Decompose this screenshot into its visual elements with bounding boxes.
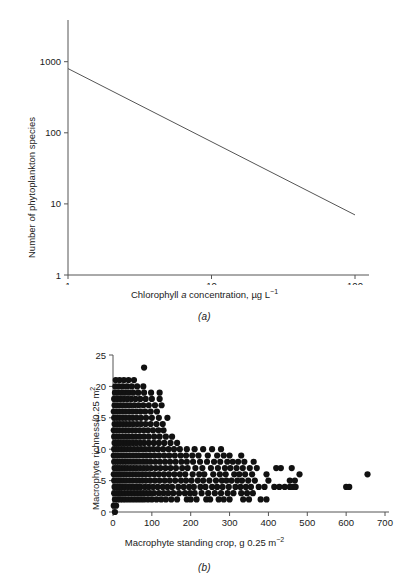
data-point	[184, 459, 190, 465]
data-point	[129, 383, 135, 389]
data-point	[190, 471, 196, 477]
data-point	[205, 452, 211, 458]
panel-b-x-tick-label: 500	[299, 517, 315, 528]
data-point	[208, 465, 214, 471]
data-point	[195, 452, 201, 458]
data-point	[199, 465, 205, 471]
data-point	[183, 452, 189, 458]
data-point	[197, 459, 203, 465]
data-point	[167, 478, 173, 484]
data-point	[198, 490, 204, 496]
data-point	[169, 484, 175, 490]
data-point	[226, 484, 232, 490]
data-point	[256, 484, 262, 490]
data-point	[168, 496, 174, 502]
data-point	[142, 408, 148, 414]
data-point	[202, 484, 208, 490]
data-point	[237, 484, 243, 490]
data-point	[146, 434, 152, 440]
panel-a-y-axis-title: Number of phytoplankton species	[26, 117, 37, 258]
data-point	[163, 434, 169, 440]
data-point	[200, 478, 206, 484]
panel-b-x-tick-label: 300	[222, 517, 238, 528]
panel-a-plot: 1101001000110100	[0, 0, 409, 285]
data-point	[170, 490, 176, 496]
data-point	[225, 490, 231, 496]
y-title-text: Number of phytoplankton species	[26, 117, 37, 258]
data-point	[141, 390, 147, 396]
data-point	[149, 415, 155, 421]
data-point	[207, 496, 213, 502]
data-point	[227, 465, 233, 471]
data-point	[148, 390, 154, 396]
data-point	[230, 490, 236, 496]
data-point	[346, 484, 352, 490]
panel-a-x-tick-label: 10	[206, 280, 217, 285]
data-point	[211, 459, 217, 465]
data-point	[221, 496, 227, 502]
panel-a-x-tick-label: 100	[347, 280, 363, 285]
data-point	[209, 446, 215, 452]
data-point	[210, 471, 216, 477]
data-point	[245, 478, 251, 484]
data-point	[141, 364, 147, 370]
panel-b-x-tick-label: 100	[144, 517, 160, 528]
data-point	[166, 471, 172, 477]
data-point	[364, 471, 370, 477]
data-point	[238, 490, 244, 496]
panel-b-y-tick-label: 5	[101, 475, 106, 486]
data-point	[254, 465, 260, 471]
panel-a-label-text: (a)	[198, 311, 211, 322]
data-point	[140, 402, 146, 408]
panel-a-x-tick-label: 1	[65, 280, 70, 285]
data-point	[191, 484, 197, 490]
data-point	[265, 478, 271, 484]
panel-b-y-axis-title: Macrophyte richness/0.25 m2	[89, 387, 101, 510]
data-point	[192, 465, 198, 471]
data-point	[112, 509, 118, 515]
data-point	[157, 434, 163, 440]
data-point	[244, 490, 250, 496]
data-point	[179, 465, 185, 471]
data-point	[171, 471, 177, 477]
panel-a-y-tick-label: 100	[45, 127, 61, 138]
data-point	[219, 484, 225, 490]
data-point	[143, 415, 149, 421]
data-point	[185, 465, 191, 471]
data-point	[156, 415, 162, 421]
data-point	[263, 496, 269, 502]
data-point	[167, 440, 173, 446]
data-point	[192, 446, 198, 452]
panel-b-y-tick-label: 25	[95, 350, 106, 361]
data-point	[160, 427, 166, 433]
data-point	[176, 490, 182, 496]
data-point	[205, 490, 211, 496]
panel-b-x-tick-label: 400	[260, 517, 276, 528]
data-point	[239, 478, 245, 484]
panel-a-y-tick-label: 10	[50, 198, 61, 209]
y-title-prefix: Macrophyte richness/0.25 m	[90, 391, 101, 510]
data-point	[214, 484, 220, 490]
data-point	[221, 452, 227, 458]
data-point	[242, 471, 248, 477]
data-point	[149, 396, 155, 402]
data-point	[172, 478, 178, 484]
data-point	[148, 408, 154, 414]
data-point	[204, 459, 210, 465]
data-point	[183, 478, 189, 484]
data-point	[195, 478, 201, 484]
data-point	[214, 452, 220, 458]
data-point	[154, 408, 160, 414]
data-point	[137, 396, 143, 402]
data-point	[188, 478, 194, 484]
data-point	[131, 377, 137, 383]
data-point	[134, 383, 140, 389]
data-point	[181, 484, 187, 490]
data-point	[247, 465, 253, 471]
data-point	[278, 465, 284, 471]
data-point	[230, 459, 236, 465]
panel-b-plot: 05101520250100200300400500600700	[0, 340, 409, 530]
data-point	[235, 459, 241, 465]
data-point	[296, 471, 302, 477]
data-point	[206, 478, 212, 484]
